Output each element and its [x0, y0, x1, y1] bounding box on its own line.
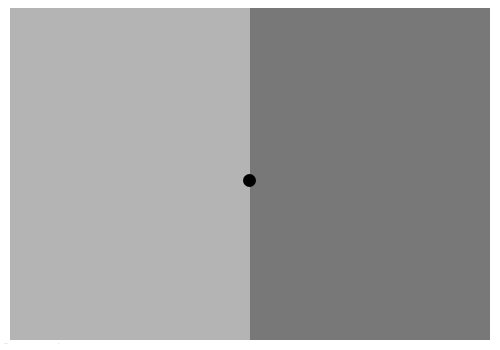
right-gray-panel [250, 8, 490, 340]
stimulus-frame [10, 8, 490, 340]
fixation-dot [243, 174, 256, 187]
footer-mark-right: · [58, 341, 59, 346]
footer-mark-left: ··· [4, 341, 8, 346]
left-gray-panel [10, 8, 250, 340]
